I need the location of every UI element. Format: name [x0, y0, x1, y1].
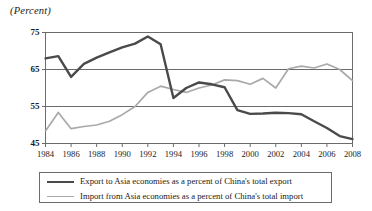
x-axis-tick-label: 1986 — [62, 149, 79, 159]
x-axis-ticks — [46, 144, 353, 148]
legend-swatch-import-icon — [47, 196, 74, 197]
legend-label-export: Export to Asia economies as a percent of… — [80, 177, 292, 186]
chart-container: (Percent) 45556575 198419861988199019921… — [0, 0, 372, 211]
legend-swatch-export-icon — [47, 181, 74, 183]
x-axis-tick-label: 1992 — [139, 149, 156, 159]
legend-item-export: Export to Asia economies as a percent of… — [40, 174, 331, 189]
legend-label-import: Import from Asia economies as a percent … — [80, 192, 303, 201]
x-axis-tick-label: 1990 — [114, 149, 131, 159]
x-axis-tick-label: 2008 — [344, 149, 361, 159]
x-axis-tick-label: 2006 — [318, 149, 335, 159]
x-axis-tick-label: 2000 — [242, 149, 259, 159]
x-axis-tick-label: 1988 — [88, 149, 105, 159]
series-line-import — [46, 64, 353, 131]
x-axis-tick-label: 1996 — [190, 149, 207, 159]
x-axis-tick-label: 2002 — [267, 149, 284, 159]
x-axis-tick-label: 2004 — [293, 149, 310, 159]
legend-item-import: Import from Asia economies as a percent … — [40, 189, 331, 204]
y-axis-tick-label: 45 — [18, 138, 40, 148]
chart-legend: Export to Asia economies as a percent of… — [39, 172, 332, 203]
x-axis-tick-label: 1994 — [165, 149, 182, 159]
y-axis-tick-label: 65 — [18, 64, 40, 74]
y-axis-tick-label: 75 — [18, 27, 40, 37]
y-axis-ticks — [42, 33, 46, 144]
y-axis-tick-label: 55 — [18, 101, 40, 111]
x-axis-tick-label: 1984 — [37, 149, 54, 159]
x-axis-tick-label: 1998 — [216, 149, 233, 159]
